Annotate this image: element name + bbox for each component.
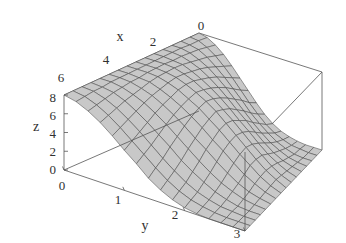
surface-plot-figure: x 0 2 4 6 z 8 6 4 2 0 y 0 1 2 3 xyxy=(0,0,346,243)
surface-mesh xyxy=(64,33,322,231)
plot-canvas xyxy=(0,0,346,243)
